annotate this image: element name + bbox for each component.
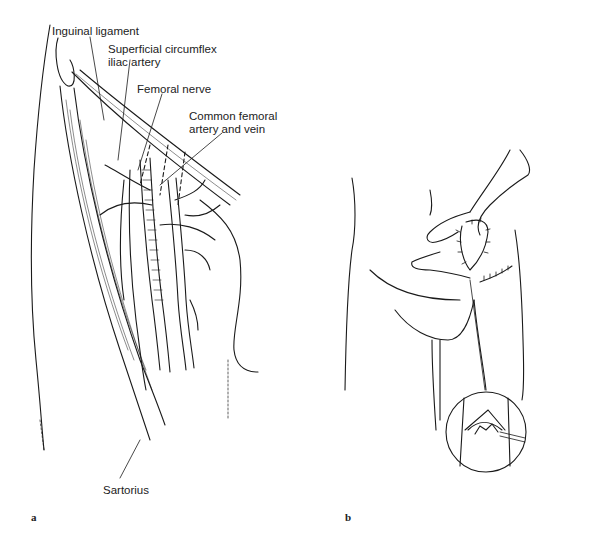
panel-letter-b: b (345, 511, 351, 523)
label-common-femoral-line1: Common femoral (189, 110, 277, 123)
label-sartorius: Sartorius (103, 484, 149, 497)
label-common-femoral-line2: artery and vein (189, 123, 265, 136)
label-femoral-nerve: Femoral nerve (137, 83, 211, 96)
panel-b-illustration (0, 0, 596, 534)
label-superficial-circumflex-line1: Superficial circumflex (108, 43, 217, 56)
label-superficial-circumflex-line2: iliac artery (108, 56, 160, 69)
anatomical-figure: Inguinal ligament Superficial circumflex… (0, 0, 596, 534)
panel-letter-a: a (31, 511, 37, 523)
label-inguinal-ligament: Inguinal ligament (52, 25, 139, 38)
